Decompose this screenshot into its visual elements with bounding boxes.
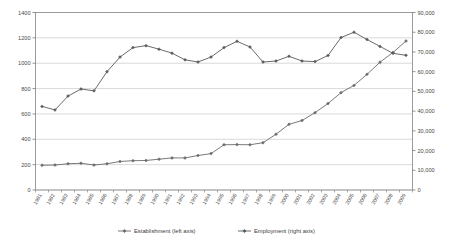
series-marker (158, 158, 161, 161)
x-axis-tick-label: 2005 (344, 192, 355, 205)
right-axis-tick-label: 80,000 (418, 29, 435, 35)
x-axis-tick-label: 1993 (188, 192, 199, 205)
legend-marker (123, 229, 126, 232)
series-marker (171, 52, 174, 55)
right-axis-tick-label: 0 (418, 187, 421, 193)
right-axis-tick-label: 30,000 (418, 128, 435, 134)
x-axis-tick-label: 2001 (292, 192, 303, 205)
left-axis-tick-label: 200 (21, 162, 30, 168)
series-marker (41, 164, 44, 167)
x-axis-tick-label: 1983 (58, 192, 69, 205)
plot-area-frame (36, 13, 413, 191)
left-axis-tick-label: 800 (21, 86, 30, 92)
x-axis-tick-label: 1998 (253, 192, 264, 205)
x-axis-tick-label: 1984 (71, 192, 82, 205)
series-marker (288, 55, 291, 58)
series-marker (405, 54, 408, 57)
chart-container: 0200400600800100012001400 010,00020,0003… (0, 0, 461, 245)
x-axis-tick-label: 1996 (227, 192, 238, 205)
left-axis-tick-label: 1000 (18, 60, 30, 66)
x-axis-tick-label: 1990 (149, 192, 160, 205)
x-axis-tick-label: 1987 (110, 192, 121, 205)
x-axis-tick-label: 2009 (396, 192, 407, 205)
right-axis-ticks: 010,00020,00030,00040,00050,00060,00070,… (413, 10, 435, 194)
right-axis-tick-label: 20,000 (418, 148, 435, 154)
grid-lines (36, 13, 413, 191)
x-axis-tick-label: 1992 (175, 192, 186, 205)
data-series-layer (41, 31, 408, 167)
legend-item-establishment[interactable]: Establishment (left axis) (118, 228, 196, 234)
legend-label: Employment (right axis) (254, 228, 315, 234)
left-axis-tick-label: 1200 (18, 35, 30, 41)
x-axis-tick-label: 2007 (370, 192, 381, 205)
series-line (42, 32, 406, 110)
series-line (42, 41, 406, 165)
right-axis-tick-label: 70,000 (418, 49, 435, 55)
x-axis-tick-label: 1995 (214, 192, 225, 205)
x-axis-tick-label: 2004 (331, 192, 342, 205)
right-axis-tick-label: 50,000 (418, 88, 435, 94)
x-axis-tick-label: 1991 (162, 192, 173, 205)
left-axis-tick-label: 600 (21, 111, 30, 117)
x-axis-tick-label: 2000 (279, 192, 290, 205)
left-axis-tick-label: 0 (27, 187, 30, 193)
series-marker (145, 44, 148, 47)
legend-item-employment[interactable]: Employment (right axis) (238, 228, 315, 234)
series-marker (275, 60, 278, 63)
chart-legend: Establishment (left axis)Employment (rig… (118, 228, 315, 234)
legend-label: Establishment (left axis) (134, 228, 196, 234)
plot-border (36, 13, 413, 191)
x-axis-tick-label: 1989 (136, 192, 147, 205)
right-axis-tick-label: 40,000 (418, 108, 435, 114)
series-marker (314, 60, 317, 63)
series-marker (249, 143, 252, 146)
series-marker (119, 160, 122, 163)
series-marker (301, 60, 304, 63)
series-marker (158, 48, 161, 51)
x-axis-tick-label: 1999 (266, 192, 277, 205)
series-marker (236, 40, 239, 43)
x-axis-tick-label: 1986 (97, 192, 108, 205)
series-marker (54, 164, 57, 167)
series-marker (41, 105, 44, 108)
left-axis-tick-label: 1400 (18, 10, 30, 16)
x-axis-tick-label: 1988 (123, 192, 134, 205)
right-axis-tick-label: 60,000 (418, 69, 435, 75)
left-axis-ticks: 0200400600800100012001400 (18, 10, 35, 194)
x-axis-tick-label: 1997 (240, 192, 251, 205)
x-axis-tick-label: 2008 (383, 192, 394, 205)
series-marker (145, 159, 148, 162)
right-axis-tick-label: 90,000 (418, 10, 435, 16)
series-employment (41, 31, 408, 112)
x-axis-tick-label: 1985 (84, 192, 95, 205)
right-axis-tick-label: 10,000 (418, 167, 435, 173)
series-marker (236, 143, 239, 146)
series-marker (197, 154, 200, 157)
x-axis-tick-label: 2003 (318, 192, 329, 205)
x-axis-tick-label: 2002 (305, 192, 316, 205)
x-axis-tick-label: 1982 (45, 192, 56, 205)
series-marker (93, 164, 96, 167)
x-axis-tick-label: 2006 (357, 192, 368, 205)
x-axis-tick-label: 1994 (201, 192, 212, 205)
left-axis-tick-label: 400 (21, 136, 30, 142)
series-establishment (41, 40, 408, 167)
legend-marker (243, 229, 246, 232)
series-marker (171, 156, 174, 159)
series-marker (184, 156, 187, 159)
x-axis-tick-labels: 1981198219831984198519861987198819891990… (32, 192, 407, 205)
series-marker (132, 159, 135, 162)
dual-axis-line-chart: 0200400600800100012001400 010,00020,0003… (0, 0, 461, 245)
x-axis-tick-label: 1981 (32, 192, 43, 205)
